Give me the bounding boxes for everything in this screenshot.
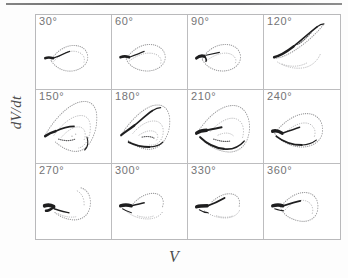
phase-orbit-120 — [264, 15, 340, 89]
phase-orbit-210 — [188, 90, 263, 164]
panel-120[interactable]: 120° — [264, 15, 340, 90]
page-rule — [6, 3, 342, 5]
panel-270[interactable]: 270° — [36, 164, 112, 239]
panel-300[interactable]: 300° — [112, 164, 188, 239]
phase-orbit-150 — [36, 90, 111, 164]
phase-orbit-270 — [36, 164, 111, 239]
phase-orbit-90 — [188, 15, 263, 89]
phase-orbit-240 — [264, 90, 340, 164]
phase-orbit-180 — [112, 90, 187, 164]
phase-orbit-360 — [264, 164, 340, 239]
panel-grid: 30° 60° — [35, 14, 341, 240]
panel-360[interactable]: 360° — [264, 164, 340, 239]
panel-90[interactable]: 90° — [188, 15, 264, 90]
panel-180[interactable]: 180° — [112, 90, 188, 165]
panel-210[interactable]: 210° — [188, 90, 264, 165]
phase-orbit-300 — [112, 164, 187, 239]
phase-orbit-330 — [188, 164, 263, 239]
x-axis-label: V — [0, 248, 348, 266]
phase-orbit-30 — [36, 15, 111, 89]
figure-root: dV/dt 30° 60° — [0, 0, 348, 278]
y-axis-label: dV/dt — [8, 81, 25, 145]
panel-150[interactable]: 150° — [36, 90, 112, 165]
panel-60[interactable]: 60° — [112, 15, 188, 90]
panel-30[interactable]: 30° — [36, 15, 112, 90]
phase-orbit-60 — [112, 15, 187, 89]
panel-330[interactable]: 330° — [188, 164, 264, 239]
panel-240[interactable]: 240° — [264, 90, 340, 165]
